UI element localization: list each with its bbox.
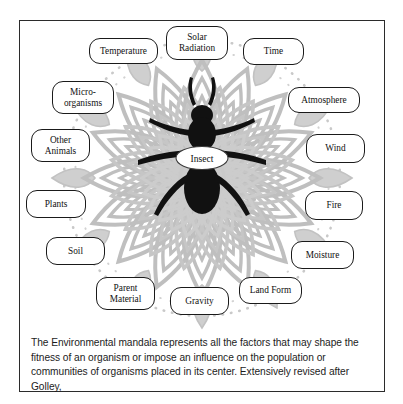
node-time-label: Time: [264, 46, 283, 57]
node-micro-organisms[interactable]: Micro- organisms: [52, 81, 114, 114]
node-fire[interactable]: Fire: [305, 191, 363, 220]
node-fire-label: Fire: [327, 200, 342, 211]
node-land-form[interactable]: Land Form: [239, 277, 302, 304]
node-other-animals-label-1: Other: [50, 135, 71, 146]
node-wind-label: Wind: [325, 143, 345, 154]
node-other-animals[interactable]: Other Animals: [31, 129, 90, 162]
node-atmosphere[interactable]: Atmosphere: [288, 87, 360, 113]
figure-caption: The Environmental mandala represents all…: [31, 336, 375, 394]
node-solar-radiation[interactable]: Solar Radiation: [166, 26, 228, 60]
mandala-stage: Insect: [19, 20, 385, 330]
node-wind[interactable]: Wind: [306, 134, 365, 163]
node-solar-radiation-label-1: Solar: [187, 32, 207, 43]
node-parent-material[interactable]: Parent Material: [96, 277, 155, 310]
node-soil-label: Soil: [68, 246, 83, 257]
environmental-mandala-figure: Insect Temperature Solar Radiation Time …: [0, 0, 403, 404]
node-plants[interactable]: Plants: [26, 190, 86, 218]
node-parent-material-label-1: Parent: [114, 283, 138, 294]
mandala-illustration: [19, 20, 385, 330]
page-header-remnant: [0, 0, 403, 19]
node-plants-label: Plants: [45, 199, 68, 210]
node-gravity-label: Gravity: [185, 296, 213, 307]
node-temperature-label: Temperature: [100, 46, 147, 57]
insect-label-text: Insect: [176, 150, 228, 167]
node-gravity[interactable]: Gravity: [170, 287, 229, 315]
node-soil[interactable]: Soil: [46, 237, 105, 265]
node-land-form-label: Land Form: [250, 285, 292, 296]
node-parent-material-label-2: Material: [110, 294, 142, 305]
node-micro-organisms-label-2: organisms: [64, 98, 102, 109]
node-solar-radiation-label-2: Radiation: [179, 43, 215, 54]
node-moisture-label: Moisture: [306, 250, 340, 261]
node-other-animals-label-2: Animals: [45, 146, 77, 157]
node-temperature[interactable]: Temperature: [89, 38, 158, 64]
node-atmosphere-label: Atmosphere: [301, 95, 346, 106]
node-moisture[interactable]: Moisture: [291, 241, 354, 269]
node-micro-organisms-label-1: Micro-: [70, 87, 96, 98]
node-time[interactable]: Time: [243, 38, 304, 65]
